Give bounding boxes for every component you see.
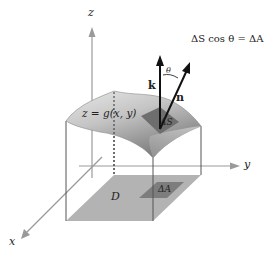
surface-label: z = g(x, y) — [82, 107, 136, 119]
x-axis-label: x — [9, 235, 15, 248]
z-axis-label: z — [88, 6, 94, 19]
x-axis — [21, 157, 102, 239]
domain-region — [66, 175, 201, 221]
y-axis-label: y — [244, 158, 250, 171]
n-arrow-icon — [182, 62, 190, 74]
equation: ΔS cos θ = ΔA — [191, 33, 263, 44]
n-label: n — [176, 91, 184, 104]
delta-s-label: ΔS — [160, 117, 173, 127]
theta-label: θ — [166, 66, 171, 75]
y-axis-arrow-icon — [230, 163, 240, 170]
y-axis — [79, 163, 240, 170]
domain-label: D — [111, 190, 120, 203]
k-label: k — [148, 79, 156, 92]
k-arrow-icon — [156, 55, 164, 66]
delta-a-label: ΔA — [158, 184, 171, 194]
z-axis-arrow-icon — [89, 27, 96, 37]
